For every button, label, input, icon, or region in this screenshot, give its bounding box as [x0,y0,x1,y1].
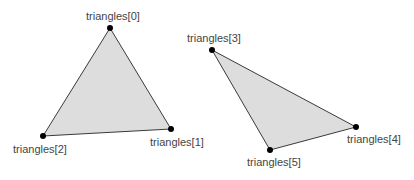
vertex-dot-0 [107,25,113,31]
vertex-dot-3 [209,47,215,53]
vertex-label-1: triangles[1] [150,136,204,148]
vertex-label-5: triangles[5] [247,156,301,168]
vertex-label-3: triangles[3] [187,32,241,44]
vertex-label-2: triangles[2] [13,143,67,155]
vertex-dot-2 [40,133,46,139]
vertex-label-4: triangles[4] [347,133,401,145]
vertex-label-0: triangles[0] [86,10,140,22]
triangle-b: triangles[3] triangles[4] triangles[5] [187,32,401,168]
triangle-a-shape [43,28,171,136]
triangles-diagram: triangles[0] triangles[1] triangles[2] t… [0,0,414,180]
vertex-dot-1 [168,126,174,132]
triangle-b-shape [212,50,356,150]
triangle-a: triangles[0] triangles[1] triangles[2] [13,10,204,155]
vertex-dot-4 [353,124,359,130]
vertex-dot-5 [267,147,273,153]
